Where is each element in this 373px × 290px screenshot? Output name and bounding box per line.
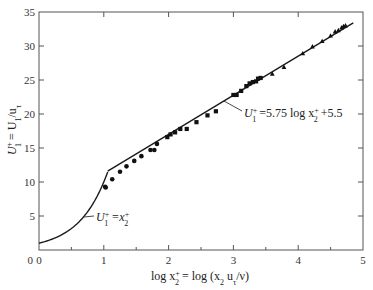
y-tick-label: 15 bbox=[24, 142, 36, 154]
marker-square bbox=[168, 132, 172, 136]
annotation-sublayer: U+1 =x+2 bbox=[96, 210, 130, 228]
marker-square bbox=[173, 130, 177, 134]
annotation-leader-low bbox=[84, 216, 94, 217]
marker-circle bbox=[110, 177, 115, 182]
marker-square bbox=[235, 93, 239, 97]
x-axis-title: log x+2 = log (x2 uτ/ν) bbox=[151, 269, 249, 287]
annotation-leader-high bbox=[224, 101, 242, 111]
x-tick-label: 0 bbox=[36, 254, 42, 266]
marker-square bbox=[205, 113, 209, 117]
y-axis-title: U+1 = U1/uτ bbox=[5, 104, 23, 155]
y-tick-label: 25 bbox=[24, 74, 36, 86]
marker-circle bbox=[103, 185, 108, 190]
x-tick-label: 5 bbox=[360, 254, 366, 266]
chart: 01234551015202530350 log x+2 = log (x2 u… bbox=[0, 0, 373, 290]
origin-label: 0 bbox=[28, 254, 34, 266]
x-tick-label: 2 bbox=[166, 254, 172, 266]
y-tick-label: 35 bbox=[24, 6, 36, 18]
marker-circle bbox=[152, 148, 157, 153]
y-tick-label: 20 bbox=[24, 108, 36, 120]
x-tick-label: 4 bbox=[295, 254, 301, 266]
marker-square bbox=[259, 76, 263, 80]
marker-circle bbox=[139, 154, 144, 159]
marker-circle bbox=[118, 170, 123, 175]
y-tick-label: 30 bbox=[24, 40, 36, 52]
curve-line bbox=[108, 23, 354, 171]
curves bbox=[39, 23, 353, 243]
marker-square bbox=[194, 120, 198, 124]
marker-square bbox=[185, 127, 189, 131]
y-tick-label: 10 bbox=[24, 176, 36, 188]
marker-circle bbox=[155, 142, 160, 147]
x-tick-label: 1 bbox=[101, 254, 107, 266]
y-tick-label: 5 bbox=[30, 210, 36, 222]
marker-square bbox=[239, 89, 243, 93]
annotation-log-law: U+1 =5.75 log x+2 +5.5 bbox=[244, 106, 343, 124]
marker-square bbox=[214, 109, 218, 113]
curve-line bbox=[39, 172, 108, 243]
x-tick-label: 3 bbox=[231, 254, 237, 266]
axis-ticks: 01234551015202530350 bbox=[24, 6, 366, 266]
marker-circle bbox=[132, 159, 137, 164]
marker-circle bbox=[124, 164, 129, 169]
marker-square bbox=[178, 127, 182, 131]
